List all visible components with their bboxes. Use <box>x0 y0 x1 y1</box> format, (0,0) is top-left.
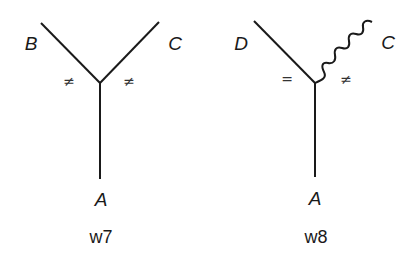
label-c: C <box>168 33 182 54</box>
caption-w8: w8 <box>303 227 327 247</box>
diagram-canvas: B C ≠ ≠ A w7 D C = ≠ A w8 <box>0 0 417 260</box>
mark-left: = <box>281 71 293 87</box>
mark-right: ≠ <box>340 71 352 87</box>
label-a: A <box>308 188 322 209</box>
label-c: C <box>381 32 395 53</box>
label-a: A <box>94 189 108 210</box>
caption-w7: w7 <box>88 227 112 247</box>
diagram-w8: D C = ≠ A w8 <box>234 21 395 247</box>
mark-left: ≠ <box>63 73 75 89</box>
diagram-w7: B C ≠ ≠ A w7 <box>25 22 182 247</box>
mark-right: ≠ <box>123 73 135 89</box>
label-d: D <box>234 33 248 54</box>
label-b: B <box>25 33 38 54</box>
